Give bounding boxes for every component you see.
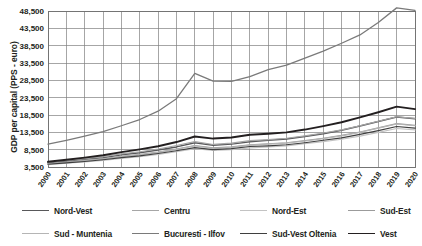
legend-item[interactable]: Nord-Vest bbox=[22, 206, 132, 216]
legend-line-swatch bbox=[348, 233, 375, 234]
chart-legend: Nord-VestCentruNord-EstSud-EstSud - Munt… bbox=[0, 199, 422, 246]
x-tick-labels: 2000200120022003200420052006200720082009… bbox=[36, 169, 420, 189]
y-tick-label: 3,500 bbox=[24, 163, 45, 172]
legend-item-label: Centru bbox=[164, 206, 190, 216]
x-tick-label: 2014 bbox=[293, 169, 311, 189]
y-tick-label: 13,500 bbox=[20, 128, 45, 137]
legend-item-label: Nord-Vest bbox=[54, 206, 92, 216]
legend-line-swatch bbox=[132, 210, 159, 211]
x-tick-label: 2017 bbox=[348, 170, 365, 189]
x-tick-label: 2006 bbox=[146, 170, 163, 189]
legend-item-label: Sud - Muntenia bbox=[54, 229, 112, 239]
y-tick-label: 43,500 bbox=[20, 24, 45, 33]
x-tick-label: 2004 bbox=[109, 169, 127, 189]
y-tick-label: 38,500 bbox=[20, 42, 45, 51]
chart-container: GDP per capital (PPS - euro) 3,5008,5001… bbox=[0, 0, 422, 246]
y-tick-labels: 3,5008,50013,50018,50023,50028,50033,500… bbox=[20, 7, 45, 172]
legend-item-label: Sud-Vest Oltenia bbox=[272, 229, 336, 239]
x-tick-label: 2002 bbox=[73, 170, 90, 189]
legend-item-label: Sud-Est bbox=[380, 206, 411, 216]
line-chart-plot: 3,5008,50013,50018,50023,50028,50033,500… bbox=[0, 0, 422, 200]
legend-item[interactable]: Bucuresti - Ilfov bbox=[132, 229, 240, 239]
legend-line-swatch bbox=[240, 210, 267, 211]
legend-item-label: Bucuresti - Ilfov bbox=[164, 229, 225, 239]
y-tick-label: 33,500 bbox=[20, 59, 45, 68]
x-tick-label: 2018 bbox=[366, 170, 383, 189]
x-tick-label: 2012 bbox=[256, 170, 273, 189]
x-tick-label: 2007 bbox=[165, 170, 182, 189]
legend-item-label: Nord-Est bbox=[272, 206, 306, 216]
legend-line-swatch bbox=[22, 210, 49, 211]
y-tick-label: 23,500 bbox=[20, 94, 45, 103]
legend-line-swatch bbox=[22, 233, 49, 234]
y-tick-label: 18,500 bbox=[20, 111, 45, 120]
x-tick-label: 2015 bbox=[311, 169, 329, 189]
x-tick-label: 2003 bbox=[91, 170, 108, 189]
legend-item[interactable]: Vest bbox=[348, 229, 422, 239]
y-tick-label: 8,500 bbox=[24, 146, 45, 155]
x-tick-label: 2016 bbox=[330, 170, 347, 189]
legend-item[interactable]: Sud - Muntenia bbox=[22, 229, 132, 239]
legend-line-swatch bbox=[348, 210, 375, 211]
legend-line-swatch bbox=[132, 233, 159, 234]
x-tick-label: 2005 bbox=[128, 169, 146, 189]
legend-line-swatch bbox=[240, 233, 267, 234]
x-tick-label: 2020 bbox=[403, 170, 420, 189]
legend-item[interactable]: Sud-Vest Oltenia bbox=[240, 229, 348, 239]
x-tick-label: 2019 bbox=[385, 170, 402, 189]
x-tick-label: 2010 bbox=[220, 170, 237, 189]
x-tick-label: 2008 bbox=[183, 170, 200, 189]
x-tick-label: 2001 bbox=[54, 169, 72, 189]
x-tick-label: 2009 bbox=[201, 170, 218, 189]
x-tick-label: 2013 bbox=[275, 170, 292, 189]
legend-item[interactable]: Centru bbox=[132, 206, 240, 216]
y-tick-label: 48,500 bbox=[20, 7, 45, 16]
legend-item-label: Vest bbox=[380, 229, 397, 239]
x-tick-label: 2011 bbox=[238, 169, 255, 188]
x-tick-label: 2000 bbox=[36, 170, 53, 189]
legend-item[interactable]: Sud-Est bbox=[348, 206, 422, 216]
legend-item[interactable]: Nord-Est bbox=[240, 206, 348, 216]
y-tick-label: 28,500 bbox=[20, 76, 45, 85]
